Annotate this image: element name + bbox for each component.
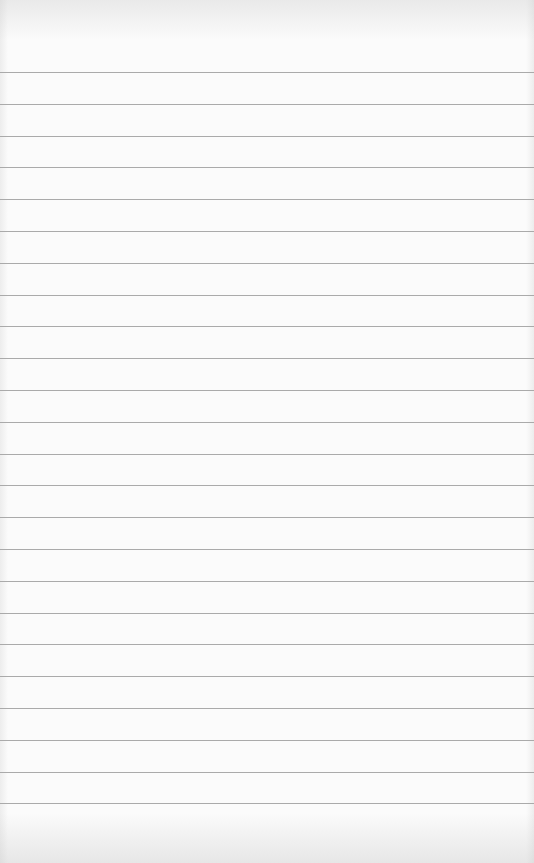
ruled-line [0, 613, 534, 614]
ruled-line [0, 199, 534, 200]
ruled-line [0, 454, 534, 455]
ruled-line [0, 708, 534, 709]
ruled-line [0, 136, 534, 137]
ruled-line [0, 326, 534, 327]
ruled-line [0, 581, 534, 582]
ruled-line [0, 263, 534, 264]
ruled-line [0, 390, 534, 391]
ruled-line [0, 549, 534, 550]
ruled-line [0, 644, 534, 645]
ruled-line [0, 803, 534, 804]
ruled-line [0, 740, 534, 741]
ruled-line [0, 517, 534, 518]
ruled-line [0, 167, 534, 168]
ruled-line [0, 676, 534, 677]
ruled-line [0, 72, 534, 73]
ruled-line [0, 485, 534, 486]
ruled-line [0, 358, 534, 359]
ruled-line [0, 295, 534, 296]
ruled-line [0, 104, 534, 105]
ruled-line [0, 772, 534, 773]
ruled-line [0, 422, 534, 423]
lined-paper [0, 0, 534, 863]
ruled-line [0, 231, 534, 232]
